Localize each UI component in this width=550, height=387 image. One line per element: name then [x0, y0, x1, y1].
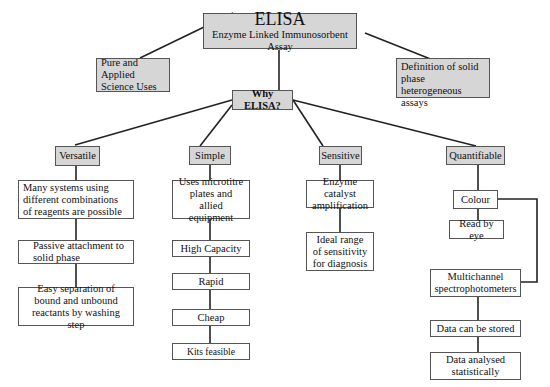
branch-label: Simple	[195, 150, 225, 162]
simple-item: Rapid	[172, 273, 250, 290]
branch-label: Versatile	[59, 150, 96, 162]
sensitive-item: Ideal range of sensitivity for diagnosis	[306, 232, 374, 271]
simple-item: High Capacity	[172, 240, 250, 257]
node-label: Definition of solid phase heterogeneous …	[401, 61, 485, 109]
item-text: Data analysed statistically	[435, 354, 516, 378]
node-pure-applied-uses: Pure and Applied Science Uses	[96, 58, 170, 92]
item-text: Multichannel spectrophotometers	[434, 271, 516, 295]
item-text: Ideal range of sensitivity for diagnosis	[311, 234, 369, 270]
item-text: Colour	[461, 194, 490, 206]
quantifiable-item: Multichannel spectrophotometers	[430, 269, 521, 297]
node-label: Why ELISA?	[237, 88, 288, 112]
branch-versatile: Versatile	[55, 146, 100, 166]
item-text: Data can be stored	[437, 323, 515, 335]
simple-item: Cheap	[172, 309, 250, 326]
item-text: Easy separation of bound and unbound rea…	[23, 283, 129, 331]
branch-label: Quantifiable	[449, 150, 501, 162]
quantifiable-item-colour: Colour	[453, 190, 498, 209]
item-text: Enzyme catalyst amplification	[311, 176, 369, 212]
node-definition-solid-phase: Definition of solid phase heterogeneous …	[396, 58, 490, 98]
branch-label: Sensitive	[321, 150, 360, 162]
quantifiable-item: Data analysed statistically	[430, 352, 521, 380]
branch-simple: Simple	[189, 146, 231, 165]
versatile-item: Many systems using different combination…	[18, 180, 134, 219]
item-text: Rapid	[198, 276, 223, 288]
title-node: ELISA Enzyme Linked Immunosorbent Assay	[203, 13, 357, 49]
title-subtitle: Enzyme Linked Immunosorbent Assay	[208, 29, 352, 53]
item-text: Read by eye	[454, 218, 499, 242]
item-text: Kits feasible	[187, 346, 235, 358]
branch-quantifiable: Quantifiable	[446, 146, 505, 165]
branch-sensitive: Sensitive	[319, 146, 362, 165]
item-text: Uses microtitre plates and allied equipm…	[177, 176, 245, 224]
versatile-item: Easy separation of bound and unbound rea…	[18, 287, 134, 326]
item-text: High Capacity	[181, 243, 242, 255]
quantifiable-item: Data can be stored	[430, 320, 521, 337]
node-why-elisa: Why ELISA?	[232, 90, 293, 110]
simple-item: Kits feasible	[172, 343, 250, 360]
item-text: Many systems using different combination…	[23, 182, 129, 218]
versatile-item: Passive attachment to solid phase	[18, 240, 134, 264]
simple-item: Uses microtitre plates and allied equipm…	[172, 180, 250, 219]
item-text: Cheap	[198, 312, 225, 324]
title-main: ELISA	[255, 10, 306, 29]
quantifiable-item: Read by eye	[449, 220, 504, 239]
node-label: Pure and Applied Science Uses	[101, 57, 165, 93]
sensitive-item: Enzyme catalyst amplification	[306, 180, 374, 208]
item-text: Passive attachment to solid phase	[33, 240, 129, 264]
